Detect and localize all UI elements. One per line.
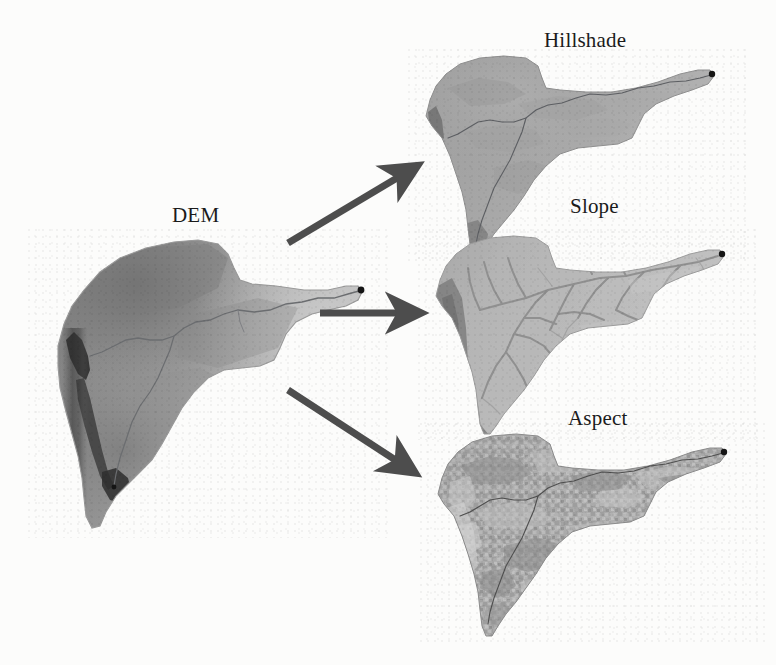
label-slope: Slope xyxy=(570,196,619,217)
dem-outlet-point xyxy=(358,287,365,294)
label-hillshade: Hillshade xyxy=(544,30,626,51)
dem-raster xyxy=(28,228,388,538)
panel-dem xyxy=(28,228,388,538)
dem-headwater-point xyxy=(112,485,117,490)
aspect-outlet-point xyxy=(721,449,727,455)
hillshade-outlet-point xyxy=(709,71,715,77)
dem-derivatives-figure: DEM Hillshade Slope Aspect xyxy=(0,0,776,665)
panel-aspect xyxy=(420,422,765,644)
slope-outlet-point xyxy=(719,251,725,257)
label-aspect: Aspect xyxy=(568,408,628,429)
label-dem: DEM xyxy=(172,205,219,226)
dem-surface xyxy=(28,228,388,538)
aspect-raster xyxy=(420,422,765,644)
